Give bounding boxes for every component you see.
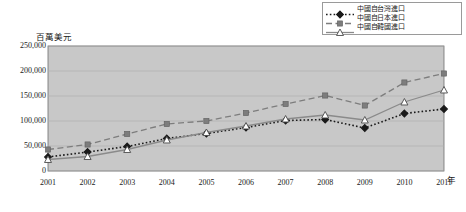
data-point-square bbox=[125, 131, 130, 136]
legend-marker-triangle-open-icon bbox=[325, 23, 355, 32]
data-point-square bbox=[85, 142, 90, 147]
legend-item-2[interactable]: 中國自韓國進口 bbox=[325, 23, 458, 32]
legend-item-1[interactable]: 中國自日本進口 bbox=[325, 14, 458, 23]
data-point-square bbox=[45, 147, 50, 152]
data-point-square bbox=[283, 101, 288, 106]
legend-item-0[interactable]: 中國自台灣進口 bbox=[325, 5, 458, 14]
data-point-square bbox=[164, 121, 169, 126]
legend-label: 中國自韓國進口 bbox=[357, 23, 405, 32]
data-point-square bbox=[243, 110, 248, 115]
data-point-square bbox=[402, 80, 407, 85]
data-point-square bbox=[204, 118, 209, 123]
legend-label: 中國自台灣進口 bbox=[357, 5, 405, 14]
data-point-square bbox=[362, 103, 367, 108]
legend: 中國自台灣進口中國自日本進口中國自韓國進口 bbox=[322, 2, 462, 35]
legend-marker-square-icon bbox=[325, 14, 355, 23]
data-point-square bbox=[323, 93, 328, 98]
data-point-square bbox=[441, 71, 446, 76]
line-chart: 百萬美元 年 250,000200,000150,000100,00050,00… bbox=[0, 0, 466, 212]
plot-background bbox=[48, 46, 444, 171]
legend-marker-diamond-icon bbox=[325, 5, 355, 14]
legend-label: 中國自日本進口 bbox=[357, 14, 405, 23]
